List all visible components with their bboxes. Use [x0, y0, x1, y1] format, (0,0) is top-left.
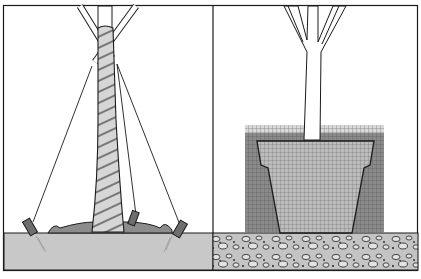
- gravel-layer: [213, 233, 418, 270]
- soil-layer: [4, 233, 213, 270]
- planting-illustration: [0, 0, 421, 279]
- illustration: Two-panel line illustration of tree plan…: [0, 0, 421, 279]
